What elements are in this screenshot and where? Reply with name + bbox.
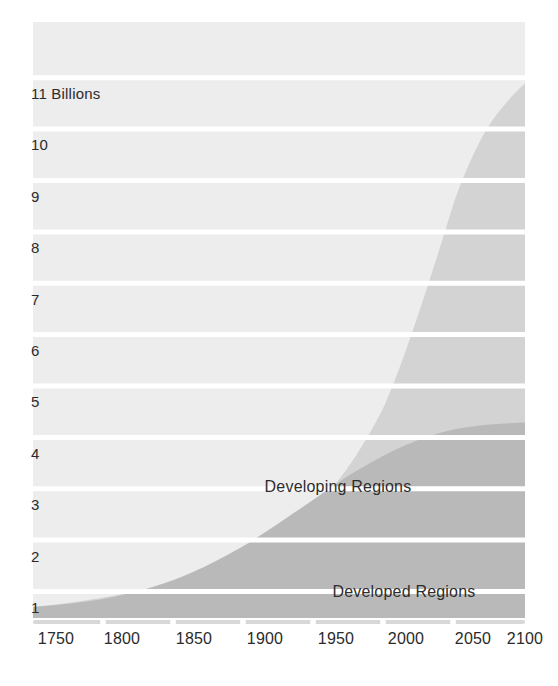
y-axis-label-10: 10 (31, 137, 48, 152)
x-axis-tick-1850 (170, 619, 176, 625)
x-axis-label-1950: 1950 (318, 630, 354, 648)
y-axis-label-6: 6 (31, 343, 40, 358)
x-axis-tick-2050 (450, 619, 456, 625)
y-axis-label-8: 8 (31, 240, 40, 255)
y-axis-label-1: 1 (31, 600, 40, 615)
stacked-area-chart (33, 22, 525, 618)
y-axis-label-4: 4 (31, 446, 40, 461)
plot-area (33, 22, 525, 618)
x-axis-tick-1950 (310, 619, 316, 625)
series-label-developing-regions: Developing Regions (265, 478, 412, 496)
y-axis-label-11: 11 Billions (31, 86, 100, 101)
x-axis-label-2050: 2050 (455, 630, 491, 648)
x-axis-tick-2000 (380, 619, 386, 625)
y-axis-label-2: 2 (31, 549, 40, 564)
x-axis-label-1850: 1850 (176, 630, 212, 648)
x-axis-label-2000: 2000 (388, 630, 424, 648)
chart-figure: Developing Regions Developed Regions 11 … (0, 0, 558, 686)
x-axis-label-1800: 1800 (104, 630, 140, 648)
x-axis-label-2100: 2100 (507, 630, 543, 648)
x-axis-tick-1900 (240, 619, 246, 625)
y-axis-label-7: 7 (31, 292, 40, 307)
x-axis-tick-1800 (100, 619, 106, 625)
x-axis-label-1900: 1900 (247, 630, 283, 648)
series-label-developed-regions: Developed Regions (332, 583, 475, 601)
y-axis-label-5: 5 (31, 394, 40, 409)
y-axis-label-9: 9 (31, 189, 40, 204)
x-axis-label-1750: 1750 (38, 630, 74, 648)
y-axis-label-3: 3 (31, 497, 40, 512)
